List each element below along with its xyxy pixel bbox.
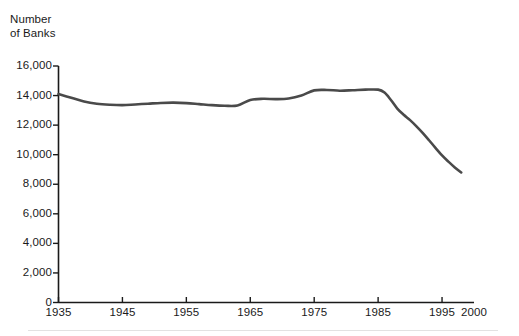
bank-count-line-chart: Numberof Banks 16,00014,00012,00010,0008… [0, 0, 519, 336]
data-series-line [59, 89, 462, 172]
footer-divider [28, 330, 498, 331]
y-axis-ticks [53, 66, 59, 303]
plot-area [0, 0, 519, 336]
x-axis-ticks [59, 297, 443, 303]
axis-lines [59, 66, 475, 303]
